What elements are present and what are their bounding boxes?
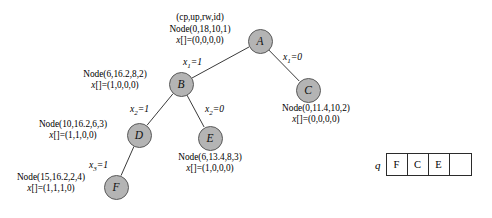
node-info-e: Node(6,13.4,8,3)x[]=(1,0,0,0) bbox=[163, 152, 257, 174]
tree-node-e[interactable]: E bbox=[198, 126, 223, 151]
node-info-tuple-e: Node(6,13.4,8,3) bbox=[163, 152, 257, 163]
queue-cell-empty[interactable] bbox=[450, 154, 471, 175]
tree-node-c[interactable]: C bbox=[296, 78, 321, 103]
node-info-a: Node(0,18,10,1)x[]=(0,0,0,0) bbox=[158, 24, 242, 46]
node-info-f: Node(15,16.2,2,4)x[]=(1,1,1,0) bbox=[2, 172, 100, 194]
tree-diagram-canvas: (cp,up,rw,id) ABCDEF x1=1x1=0x2=1x2=0x3=… bbox=[0, 0, 492, 218]
node-info-assignment-f: x[]=(1,1,1,0) bbox=[2, 183, 100, 194]
node-info-assignment-a: x[]=(0,0,0,0) bbox=[158, 35, 242, 46]
node-info-tuple-c: Node(0,11.4,10,2) bbox=[268, 103, 364, 114]
edge-label-b-e: x2=0 bbox=[205, 104, 224, 118]
tree-node-b[interactable]: B bbox=[169, 72, 194, 97]
node-info-assignment-c: x[]=(0,0,0,0) bbox=[268, 114, 364, 125]
node-info-b: Node(6,16.2,8,2)x[]=(1,0,0,0) bbox=[68, 69, 162, 91]
node-info-tuple-a: Node(0,18,10,1) bbox=[158, 24, 242, 35]
node-info-tuple-d: Node(10,16.2,6,3) bbox=[24, 119, 122, 130]
tree-edge-d-f bbox=[121, 146, 134, 175]
node-info-c: Node(0,11.4,10,2)x[]=(0,0,0,0) bbox=[268, 103, 364, 125]
tree-node-d[interactable]: D bbox=[127, 123, 152, 148]
node-info-assignment-e: x[]=(1,0,0,0) bbox=[163, 163, 257, 174]
edge-label-b-d: x2=1 bbox=[130, 104, 149, 118]
tree-node-f[interactable]: F bbox=[104, 175, 129, 200]
edge-label-a-c: x1=0 bbox=[283, 52, 302, 66]
node-info-tuple-f: Node(15,16.2,2,4) bbox=[2, 172, 100, 183]
node-info-d: Node(10,16.2,6,3)x[]=(1,1,0,0) bbox=[24, 119, 122, 141]
queue-widget: q FCE bbox=[375, 153, 472, 176]
node-info-tuple-b: Node(6,16.2,8,2) bbox=[68, 69, 162, 80]
node-info-assignment-b: x[]=(1,0,0,0) bbox=[68, 80, 162, 91]
tree-edge-b-d bbox=[147, 94, 173, 126]
queue-cell-filled[interactable]: F bbox=[387, 154, 408, 175]
tree-edge-b-e bbox=[187, 95, 204, 127]
legend-header: (cp,up,rw,id) bbox=[158, 12, 242, 23]
edge-label-a-b: x1=1 bbox=[183, 57, 202, 71]
node-info-assignment-d: x[]=(1,1,0,0) bbox=[24, 130, 122, 141]
queue-label: q bbox=[375, 159, 381, 171]
queue-box: FCE bbox=[386, 153, 472, 176]
tree-node-a[interactable]: A bbox=[248, 29, 273, 54]
queue-cell-filled[interactable]: C bbox=[408, 154, 429, 175]
queue-cell-filled[interactable]: E bbox=[429, 154, 450, 175]
